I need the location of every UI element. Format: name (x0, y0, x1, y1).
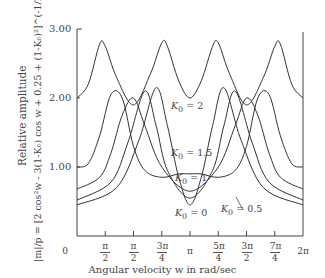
x-axis-label: Angular velocity w in rad/sec (0, 264, 325, 275)
tick-denominator: 4 (265, 253, 285, 263)
k-value: = 0.5 (236, 203, 262, 214)
k-value: = 1.5 (186, 147, 212, 158)
tick-denominator: 2 (237, 253, 257, 263)
y-tick-2: 2.00 (49, 92, 71, 103)
label-k0: K0 = 0 (175, 207, 207, 221)
x-tick-label: π (180, 246, 200, 256)
k-sub: 0 (178, 152, 183, 161)
k-sub: 0 (182, 177, 187, 186)
k-value: = 0 (190, 207, 207, 218)
tick-denominator: 4 (208, 253, 228, 263)
k-sub: 0 (228, 208, 233, 217)
tick-numerator: 5π (213, 241, 223, 253)
label-k1: K0 = 1 (175, 172, 207, 186)
label-k15: K0 = 1.5 (171, 147, 212, 161)
tick-denominator: 4 (152, 253, 172, 263)
x-tick-label: 3π2 (237, 241, 257, 263)
x-tick-label: 0 (55, 246, 75, 256)
tick-denominator: 2 (95, 253, 115, 263)
x-tick-label: 2π (293, 246, 313, 256)
x-tick-label: π2 (95, 241, 115, 263)
tick-numerator: 3π (242, 241, 252, 253)
tick-numerator: π (129, 241, 139, 253)
tick-numerator: 3π (157, 241, 167, 253)
k-value: = 2 (186, 100, 203, 111)
tick-denominator: 2 (124, 253, 144, 263)
k-sub: 0 (178, 105, 183, 114)
tick-numerator: 7π (270, 241, 280, 253)
chart-plot (0, 0, 325, 278)
x-tick-label: 3π4 (152, 241, 172, 263)
k-sub: 0 (182, 212, 187, 221)
x-tick-label: π2 (124, 241, 144, 263)
k-value: = 1 (190, 172, 207, 183)
x-tick-label: 5π4 (208, 241, 228, 263)
y-axis-formula: |m|/p = [2 cos²w - 3(1-K₀) cos w + 0.25 … (32, 0, 43, 262)
x-tick-label: 7π4 (265, 241, 285, 263)
tick-numerator: π (100, 241, 110, 253)
y-tick-3: 3.00 (49, 23, 71, 34)
y-axis-label: Relative amplitude (16, 66, 28, 166)
y-tick-1: 1.00 (49, 161, 71, 172)
label-k05: K0 = 0.5 (221, 203, 262, 217)
label-k2: K0 = 2 (171, 100, 203, 114)
